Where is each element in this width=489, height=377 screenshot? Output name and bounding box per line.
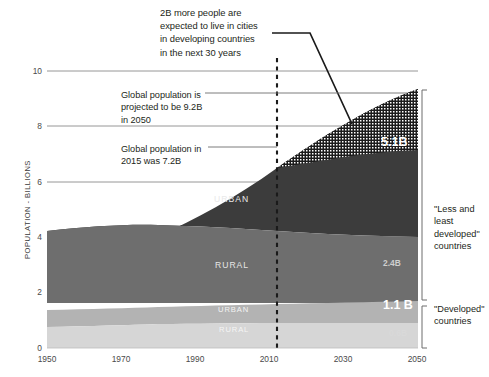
value-label-urban-developing: 5.1B xyxy=(381,135,407,149)
value-label-rural-developing: 2.4B xyxy=(383,258,401,268)
annotation-global-2015: Global population in 2015 was 7.2B xyxy=(121,143,261,168)
x-tick-1950: 1950 xyxy=(27,354,67,364)
value-label-rural-developed: 0.6B xyxy=(389,328,407,338)
x-tick-2050: 2050 xyxy=(397,354,437,364)
y-tick-10: 10 xyxy=(20,66,42,76)
y-tick-0: 0 xyxy=(20,343,42,353)
chart-root: 2B more people are expected to live in c… xyxy=(0,0,489,377)
annotation-global-2050: Global population is projected to be 9.2… xyxy=(121,89,261,126)
x-tick-2030: 2030 xyxy=(323,354,363,364)
bracket-label-less-developed: "Less and least developed" countries xyxy=(434,203,489,253)
value-label-urban-developed: 1.1 B xyxy=(383,298,413,312)
band-label-urban-developing: URBAN xyxy=(214,194,249,204)
y-tick-6: 6 xyxy=(20,177,42,187)
bracket-label-developed: "Developed" countries xyxy=(434,303,489,328)
band-label-rural-developing: RURAL xyxy=(215,260,249,270)
x-tick-2010: 2010 xyxy=(249,354,289,364)
annotation-urban-growth: 2B more people are expected to live in c… xyxy=(160,6,310,59)
y-tick-8: 8 xyxy=(20,121,42,131)
band-label-urban-developed: URBAN xyxy=(218,305,249,314)
y-tick-2: 2 xyxy=(20,287,42,297)
bracket-developed xyxy=(422,306,427,348)
x-tick-1970: 1970 xyxy=(101,354,141,364)
bracket-less-developed xyxy=(422,90,427,300)
band-label-rural-developed: RURAL xyxy=(219,325,249,334)
x-tick-1990: 1990 xyxy=(175,354,215,364)
y-axis-title: POPULATION - BILLIONS xyxy=(23,155,32,265)
y-tick-4: 4 xyxy=(20,232,42,242)
